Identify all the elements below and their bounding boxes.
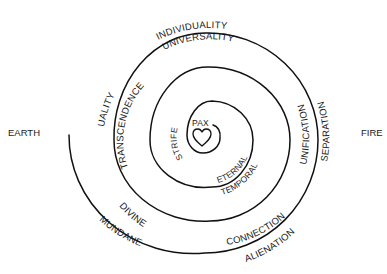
heart-icon <box>193 129 211 146</box>
duality-label: DUALITY <box>0 0 117 127</box>
spiral-diagram: PAX EARTH FIRE INDIVIDUALITY UNIVERSALIT… <box>0 0 387 274</box>
divine-label: DIVINE <box>117 200 148 229</box>
unification-label: UNIFICATION <box>295 103 312 165</box>
transcendence-label: TRANSCENDENCE <box>114 80 146 171</box>
pax-label: PAX <box>192 118 209 128</box>
strife-label: STRIFE <box>168 126 184 162</box>
fire-label: FIRE <box>361 127 383 138</box>
earth-label: EARTH <box>8 127 40 138</box>
